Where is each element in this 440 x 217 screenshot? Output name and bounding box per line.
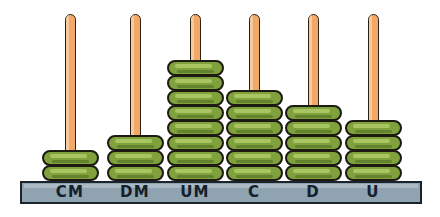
bead-shadow: [177, 175, 214, 178]
rod-dm: [130, 14, 141, 150]
bead-shadow: [236, 145, 273, 148]
bead[interactable]: [345, 165, 402, 181]
bead[interactable]: [167, 120, 224, 136]
bead[interactable]: [107, 135, 164, 151]
abacus-figure: CMDMUMCDU: [0, 0, 440, 217]
bead-shadow: [52, 175, 89, 178]
bead[interactable]: [167, 90, 224, 106]
bead-highlight: [234, 154, 271, 158]
bead-highlight: [175, 79, 212, 83]
bead[interactable]: [167, 165, 224, 181]
bead-shadow: [355, 145, 392, 148]
bead[interactable]: [226, 120, 283, 136]
bead-highlight: [293, 169, 330, 173]
bead-highlight: [353, 154, 390, 158]
bead-shadow: [295, 160, 332, 163]
bead-highlight: [353, 124, 390, 128]
bead-highlight: [293, 139, 330, 143]
bead-highlight: [293, 154, 330, 158]
bead[interactable]: [285, 165, 342, 181]
bead[interactable]: [226, 105, 283, 121]
bead-shadow: [177, 85, 214, 88]
bead-shadow: [236, 115, 273, 118]
bead-shadow: [236, 175, 273, 178]
base-label-c: C: [224, 184, 284, 201]
bead[interactable]: [226, 150, 283, 166]
bead-shadow: [295, 145, 332, 148]
bead-highlight: [175, 169, 212, 173]
bead-highlight: [175, 139, 212, 143]
bead[interactable]: [167, 135, 224, 151]
bead-shadow: [117, 175, 154, 178]
bead-shadow: [117, 160, 154, 163]
bead[interactable]: [345, 150, 402, 166]
bead-shadow: [177, 145, 214, 148]
bead[interactable]: [42, 165, 99, 181]
bead-highlight: [175, 64, 212, 68]
bead[interactable]: [167, 105, 224, 121]
bead[interactable]: [285, 105, 342, 121]
bead[interactable]: [285, 120, 342, 136]
bead-shadow: [117, 145, 154, 148]
bead-shadow: [355, 160, 392, 163]
bead-highlight: [353, 139, 390, 143]
bead-shadow: [236, 160, 273, 163]
bead-shadow: [355, 130, 392, 133]
rod-highlight: [66, 15, 69, 165]
base-label-d: D: [283, 184, 343, 201]
bead[interactable]: [226, 165, 283, 181]
base-label-dm: DM: [105, 184, 165, 201]
bead-highlight: [234, 124, 271, 128]
bead-highlight: [175, 109, 212, 113]
bead-highlight: [50, 154, 87, 158]
bead[interactable]: [345, 135, 402, 151]
bead-shadow: [177, 70, 214, 73]
bead-shadow: [236, 100, 273, 103]
bead-shadow: [177, 115, 214, 118]
bead-highlight: [234, 109, 271, 113]
bead[interactable]: [167, 60, 224, 76]
bead[interactable]: [167, 75, 224, 91]
bead-shadow: [177, 130, 214, 133]
bead-shadow: [295, 175, 332, 178]
bead[interactable]: [107, 150, 164, 166]
bead-highlight: [175, 94, 212, 98]
bead-highlight: [50, 169, 87, 173]
bead[interactable]: [167, 150, 224, 166]
bead-highlight: [293, 124, 330, 128]
bead-shadow: [355, 175, 392, 178]
bead-shadow: [236, 130, 273, 133]
bead-highlight: [234, 169, 271, 173]
bead-shadow: [177, 160, 214, 163]
bead-highlight: [175, 124, 212, 128]
bead-highlight: [115, 169, 152, 173]
base-label-u: U: [343, 184, 403, 201]
base-label-cm: CM: [40, 184, 100, 201]
bead-shadow: [295, 115, 332, 118]
bead-shadow: [177, 100, 214, 103]
bead-highlight: [234, 139, 271, 143]
bead[interactable]: [226, 90, 283, 106]
base-label-um: UM: [165, 184, 225, 201]
bead-highlight: [293, 109, 330, 113]
bead-highlight: [175, 154, 212, 158]
bead-highlight: [353, 169, 390, 173]
bead[interactable]: [285, 150, 342, 166]
bead-shadow: [295, 130, 332, 133]
bead[interactable]: [107, 165, 164, 181]
bead[interactable]: [345, 120, 402, 136]
bead[interactable]: [42, 150, 99, 166]
bead-highlight: [115, 154, 152, 158]
bead-highlight: [115, 139, 152, 143]
bead-highlight: [234, 94, 271, 98]
bead-shadow: [52, 160, 89, 163]
rod-cm: [65, 14, 76, 166]
bead[interactable]: [285, 135, 342, 151]
rod-highlight: [131, 15, 134, 149]
bead[interactable]: [226, 135, 283, 151]
